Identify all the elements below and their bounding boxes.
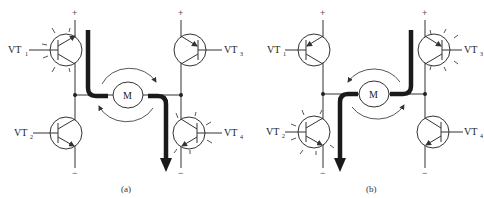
motor-label: M xyxy=(123,90,132,101)
plus-sign-left: + xyxy=(72,8,77,18)
current-path-in xyxy=(390,30,411,94)
transistor-vt4: VT 4 xyxy=(417,116,483,148)
transistor-vt2: VT 2 xyxy=(266,110,334,155)
vt4-label: VT xyxy=(464,126,477,137)
minus-sign-right: − xyxy=(422,168,427,178)
vt1-label: VT xyxy=(267,44,280,55)
transistor-vt3: VT 3 xyxy=(418,29,483,71)
vt2-label: VT xyxy=(266,126,279,137)
current-path-out xyxy=(340,94,358,160)
junction-dot xyxy=(73,93,77,97)
svg-text:1: 1 xyxy=(25,51,28,57)
caption-a: (a) xyxy=(121,184,131,194)
vt3-label: VT xyxy=(464,44,477,55)
rotation-arrow-bottom xyxy=(352,105,404,119)
rotation-arrow-top xyxy=(348,69,400,82)
svg-text:3: 3 xyxy=(480,51,483,57)
junction-dot xyxy=(423,92,427,96)
svg-text:4: 4 xyxy=(240,134,243,140)
transistor-vt2: VT 2 xyxy=(14,117,82,149)
transistor-vt1: VT 1 xyxy=(8,28,82,72)
caption-b: (b) xyxy=(366,184,377,194)
vt4-label: VT xyxy=(224,127,237,138)
vt3-label: VT xyxy=(224,44,237,55)
current-arrowhead xyxy=(160,158,172,172)
minus-sign-right: − xyxy=(178,168,183,178)
plus-sign-left: + xyxy=(320,8,325,18)
svg-text:2: 2 xyxy=(282,133,285,139)
plus-sign-right: + xyxy=(422,8,427,18)
current-path-out xyxy=(148,96,166,160)
h-bridge-diagram: + + − − M xyxy=(0,0,484,198)
vt1-label: VT xyxy=(8,44,21,55)
minus-sign-left: − xyxy=(72,168,77,178)
junction-dot xyxy=(179,93,183,97)
minus-sign-left: − xyxy=(320,168,325,178)
transistor-vt1: VT 1 xyxy=(267,34,330,66)
svg-text:3: 3 xyxy=(240,51,243,57)
panel-a: + + − − M xyxy=(8,8,243,194)
current-path-in xyxy=(88,30,108,96)
motor: M xyxy=(113,82,143,108)
plus-sign-right: + xyxy=(178,8,183,18)
junction-dot xyxy=(321,92,325,96)
transistor-vt4: VT 4 xyxy=(173,112,243,154)
motor-label: M xyxy=(369,89,378,100)
motor: M xyxy=(359,81,389,107)
panel-b: + + − − M VT 1 xyxy=(266,8,483,194)
svg-text:2: 2 xyxy=(30,134,33,140)
vt2-label: VT xyxy=(14,127,27,138)
transistor-vt3: VT 3 xyxy=(174,34,243,66)
svg-text:1: 1 xyxy=(283,51,286,57)
svg-text:4: 4 xyxy=(480,133,483,139)
current-arrowhead xyxy=(334,158,346,172)
